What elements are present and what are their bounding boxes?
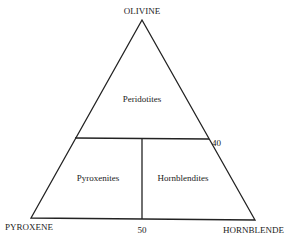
field-label-hornblendites: Hornblendites — [158, 173, 209, 183]
vertex-label-pyroxene: PYROXENE — [5, 222, 54, 232]
tick-label-50: 50 — [138, 225, 148, 235]
ternary-diagram: OLIVINE PYROXENE HORNBLENDE Peridotites … — [0, 0, 288, 242]
field-label-peridotites: Peridotites — [123, 94, 162, 104]
tick-label-40: 40 — [212, 138, 222, 148]
triangle-outline — [31, 20, 255, 220]
vertex-label-hornblende: HORNBLENDE — [223, 225, 284, 235]
field-label-pyroxenites: Pyroxenites — [77, 173, 120, 183]
vertex-label-olivine: OLIVINE — [124, 6, 161, 16]
